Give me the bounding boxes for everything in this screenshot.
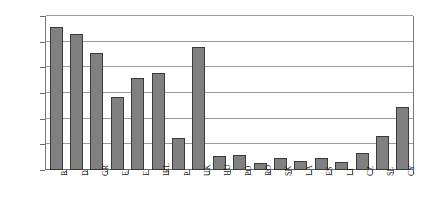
x-tick-label: HU	[223, 142, 232, 176]
x-tick-label: D	[81, 142, 90, 176]
x-tick-label: RO	[264, 142, 273, 176]
x-tick-label: SL	[386, 142, 395, 176]
x-tick-label: F	[142, 142, 151, 176]
x-tick-label: E	[121, 142, 130, 176]
x-tick-label: P	[183, 142, 192, 176]
x-tick-label: UK	[203, 142, 212, 176]
x-tick-label: SK	[284, 142, 293, 176]
x-tick-label: PO	[244, 142, 253, 176]
x-tick-label: LI	[346, 142, 355, 176]
x-tick-label: ES	[325, 142, 334, 176]
y-tick-mark	[40, 170, 45, 171]
x-tick-label: LA	[305, 142, 314, 176]
x-tick-label: CZ	[366, 142, 375, 176]
x-tick-label: CY	[407, 142, 416, 176]
x-tick-label: IRL	[162, 142, 171, 176]
bar-chart: 050010001500200025003000 BDGREFIRLPUKHUP…	[0, 0, 439, 213]
x-tick-label: GR	[101, 142, 110, 176]
x-tick-label: B	[60, 142, 69, 176]
